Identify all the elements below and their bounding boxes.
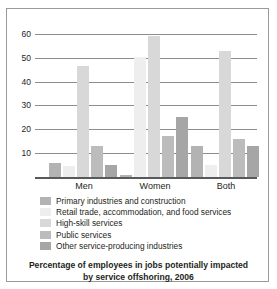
legend-swatch-icon [40, 242, 51, 250]
y-axis-tick-label: 50 [22, 54, 31, 63]
legend-swatch-icon [40, 208, 51, 216]
bar [77, 66, 89, 177]
caption-line-1: Percentage of employees in jobs potentia… [21, 259, 256, 271]
legend-swatch-icon [40, 219, 51, 227]
legend-item: Retail trade, accommodation, and food se… [40, 206, 260, 217]
legend-swatch-icon [40, 231, 51, 239]
legend-item: Public services [40, 229, 260, 240]
bar [205, 165, 217, 177]
bar [134, 57, 146, 177]
legend-item: Other service-producing industries [40, 241, 260, 252]
bar [191, 146, 203, 177]
legend-item-label: Other service-producing industries [56, 242, 182, 250]
bar-group-men [49, 22, 117, 177]
bar-group-both [191, 22, 259, 177]
chart-legend: Primary industries and constructionRetai… [40, 195, 260, 252]
legend-item-label: High-skill services [56, 219, 122, 227]
legend-item-label: Retail trade, accommodation, and food se… [56, 208, 231, 216]
bar [162, 136, 174, 177]
legend-item-label: Primary industries and construction [56, 197, 186, 205]
bar [176, 117, 188, 177]
bar [49, 163, 61, 177]
x-axis-label-women: Women [140, 181, 171, 191]
bar-group-women [120, 22, 188, 177]
caption-line-2: by service offshoring, 2006 [21, 271, 256, 283]
y-axis-tick-label: 30 [22, 101, 31, 110]
bar [247, 146, 259, 177]
x-axis-label-men: Men [75, 181, 93, 191]
x-axis-line [35, 177, 257, 179]
y-axis-tick-label: 40 [22, 77, 31, 86]
bar [91, 146, 103, 177]
chart-caption: Percentage of employees in jobs potentia… [21, 259, 256, 283]
y-axis-tick-label: 20 [22, 125, 31, 134]
legend-swatch-icon [40, 197, 51, 205]
chart-figure: 605040302010 Primary industries and cons… [6, 8, 269, 282]
bar [219, 51, 231, 177]
legend-item: High-skill services [40, 218, 260, 229]
legend-item: Primary industries and construction [40, 195, 260, 206]
bar [233, 139, 245, 177]
x-axis-label-both: Both [217, 181, 236, 191]
y-axis-tick-label: 60 [22, 30, 31, 39]
plot-area: 605040302010 [35, 22, 257, 177]
legend-item-label: Public services [56, 231, 111, 239]
y-axis-tick-label: 10 [22, 149, 31, 158]
bar [105, 165, 117, 177]
bar [63, 166, 75, 177]
bar [148, 36, 160, 177]
